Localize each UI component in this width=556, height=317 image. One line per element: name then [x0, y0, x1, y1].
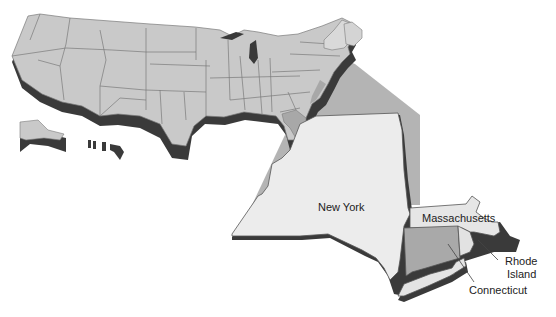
maine	[344, 22, 362, 46]
new-york	[232, 113, 410, 280]
alaska	[20, 120, 64, 140]
label-rhode-island-1: Rhode	[505, 255, 537, 267]
hawaii	[88, 140, 124, 160]
label-connecticut: Connecticut	[469, 284, 527, 296]
label-new-york: New York	[318, 201, 365, 213]
label-massachusetts: Massachusetts	[422, 212, 496, 224]
label-rhode-island-2: Island	[507, 268, 536, 280]
us-map-with-northeast-inset: New York Massachusetts Rhode Island Conn…	[0, 0, 556, 317]
